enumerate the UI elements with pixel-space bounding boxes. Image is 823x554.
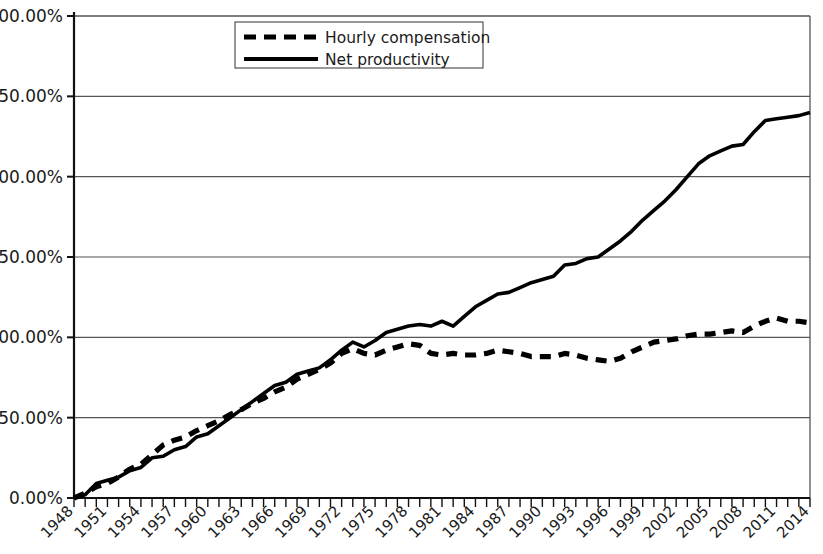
y-tick-label: 100.00% (0, 327, 63, 347)
x-tick-label: 2008 (706, 502, 746, 542)
x-tick-label: 1963 (204, 502, 244, 542)
gridlines (74, 16, 810, 418)
legend-label-2: Net productivity (325, 51, 450, 69)
series-line-1 (74, 318, 810, 498)
x-tick-label: 1996 (572, 502, 612, 542)
y-tick-label: 0.00% (9, 488, 63, 508)
y-axis-ticks: 0.00%50.00%100.00%150.00%200.00%250.00%3… (0, 6, 74, 508)
x-axis-labels: 1948195119541957196019631966196919721975… (37, 502, 813, 542)
x-tick-label: 2014 (773, 502, 813, 542)
x-tick-label: 1987 (472, 502, 512, 542)
y-tick-label: 250.00% (0, 86, 63, 106)
x-tick-label: 1990 (505, 502, 545, 542)
x-tick-label: 2011 (740, 502, 780, 542)
y-tick-label: 200.00% (0, 167, 63, 187)
x-tick-label: 1966 (238, 502, 278, 542)
x-tick-label: 1954 (104, 502, 144, 542)
y-tick-label: 50.00% (0, 408, 63, 428)
productivity-compensation-chart: 0.00%50.00%100.00%150.00%200.00%250.00%3… (0, 0, 823, 554)
axes (74, 12, 810, 498)
legend: Hourly compensationNet productivity (235, 22, 490, 69)
x-tick-label: 2005 (673, 502, 713, 542)
x-tick-label: 1981 (405, 502, 445, 542)
series-group (74, 112, 810, 498)
y-tick-label: 150.00% (0, 247, 63, 267)
y-tick-label: 300.00% (0, 6, 63, 26)
x-tick-label: 1951 (71, 502, 111, 542)
x-tick-label: 1984 (439, 502, 479, 542)
x-tick-label: 1993 (539, 502, 579, 542)
x-tick-label: 1978 (372, 502, 412, 542)
x-tick-label: 1969 (271, 502, 311, 542)
x-tick-label: 1948 (37, 502, 77, 542)
legend-label-1: Hourly compensation (325, 29, 490, 47)
x-tick-label: 1975 (338, 502, 378, 542)
x-tick-label: 1957 (137, 502, 177, 542)
x-tick-label: 1999 (606, 502, 646, 542)
x-tick-label: 1972 (305, 502, 345, 542)
chart-canvas: 0.00%50.00%100.00%150.00%200.00%250.00%3… (0, 0, 823, 554)
x-tick-label: 1960 (171, 502, 211, 542)
x-tick-label: 2002 (639, 502, 679, 542)
series-line-2 (74, 112, 810, 498)
